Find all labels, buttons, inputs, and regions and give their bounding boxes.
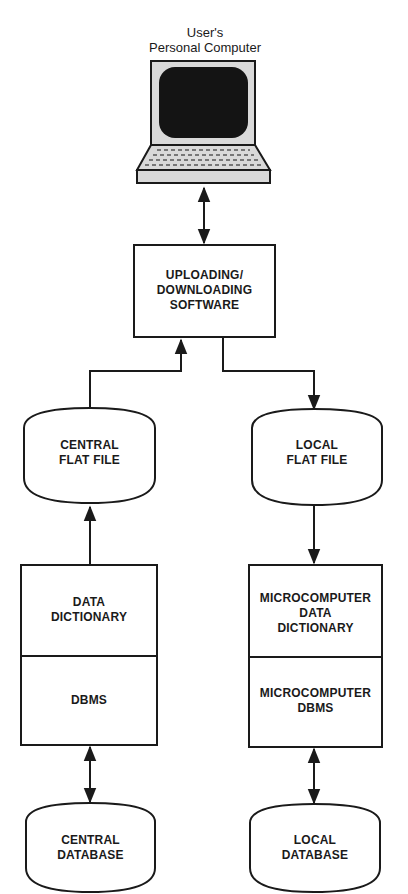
- computer-label-line2: Personal Computer: [120, 40, 290, 55]
- micro-dd-line2: DATA: [249, 606, 382, 621]
- micro-dbms-label: MICROCOMPUTER DBMS: [249, 686, 382, 716]
- local-db-line2: DATABASE: [250, 848, 380, 863]
- software-line2: DOWNLOADING: [134, 283, 275, 298]
- dbms-label: DBMS: [21, 693, 157, 708]
- software-label: UPLOADING/ DOWNLOADING SOFTWARE: [134, 268, 275, 313]
- data-dictionary-line1: DATA: [21, 595, 157, 610]
- arrow-software-to-local: [223, 337, 314, 409]
- micro-data-dictionary-label: MICROCOMPUTER DATA DICTIONARY: [249, 591, 382, 636]
- micro-dd-line1: MICROCOMPUTER: [249, 591, 382, 606]
- local-flat-file-label: LOCAL FLAT FILE: [252, 438, 382, 468]
- data-dictionary-line2: DICTIONARY: [21, 610, 157, 625]
- central-flat-line2: FLAT FILE: [24, 453, 155, 468]
- computer-label: User's Personal Computer: [120, 25, 290, 55]
- dbms-line1: DBMS: [21, 693, 157, 708]
- software-line3: SOFTWARE: [134, 298, 275, 313]
- local-flat-line2: FLAT FILE: [252, 453, 382, 468]
- micro-dd-line3: DICTIONARY: [249, 621, 382, 636]
- central-flat-file-label: CENTRAL FLAT FILE: [24, 438, 155, 468]
- central-db-line1: CENTRAL: [26, 833, 155, 848]
- central-flat-line1: CENTRAL: [24, 438, 155, 453]
- local-flat-line1: LOCAL: [252, 438, 382, 453]
- data-dictionary-label: DATA DICTIONARY: [21, 595, 157, 625]
- micro-dbms-line1: MICROCOMPUTER: [249, 686, 382, 701]
- local-database-label: LOCAL DATABASE: [250, 833, 380, 863]
- laptop-icon: [137, 61, 270, 183]
- micro-dbms-line2: DBMS: [249, 701, 382, 716]
- central-database-label: CENTRAL DATABASE: [26, 833, 155, 863]
- central-db-line2: DATABASE: [26, 848, 155, 863]
- software-line1: UPLOADING/: [134, 268, 275, 283]
- arrow-central-to-software: [90, 340, 181, 412]
- computer-label-line1: User's: [120, 25, 290, 40]
- local-db-line1: LOCAL: [250, 833, 380, 848]
